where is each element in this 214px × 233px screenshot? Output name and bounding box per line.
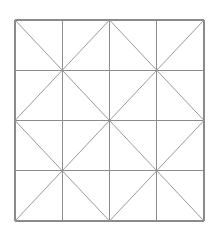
figure-canvas xyxy=(0,0,214,233)
geometric-grid-figure xyxy=(0,0,214,233)
